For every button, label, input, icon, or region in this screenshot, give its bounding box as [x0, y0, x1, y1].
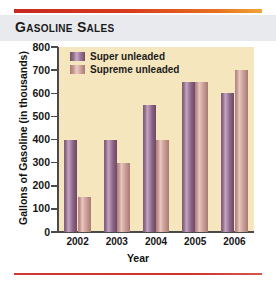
bar-supreme-unleaded-2005 [195, 82, 208, 232]
y-tick [51, 69, 58, 71]
y-axis-title: Gallons of Gasoline (in thousands) [17, 38, 29, 238]
y-tick [51, 185, 58, 187]
y-tick [51, 46, 58, 48]
y-tick [51, 231, 58, 233]
bar-supreme-unleaded-2003 [117, 163, 130, 232]
legend-label-super: Super unleaded [90, 51, 165, 62]
bar-super-unleaded-2002 [64, 140, 77, 233]
chart-figure: Gasoline Sales 0100200300400500600700800… [0, 0, 276, 293]
x-tick-label: 2002 [58, 236, 98, 247]
y-tick [51, 116, 58, 118]
bar-super-unleaded-2003 [104, 140, 117, 233]
legend-item-supreme: Supreme unleaded [70, 64, 179, 75]
bar-super-unleaded-2005 [182, 82, 195, 232]
top-accent-rule [14, 9, 262, 13]
x-tick-label: 2006 [214, 236, 254, 247]
bar-supreme-unleaded-2002 [78, 197, 91, 232]
y-tick [51, 93, 58, 95]
y-tick [51, 208, 58, 210]
bar-supreme-unleaded-2004 [156, 140, 169, 233]
x-tick-label: 2005 [175, 236, 215, 247]
bar-super-unleaded-2004 [143, 105, 156, 232]
x-tick-label: 2004 [136, 236, 176, 247]
legend-swatch-icon-super [70, 52, 85, 61]
x-axis-title: Year [0, 252, 276, 264]
chart-legend: Super unleaded Supreme unleaded [70, 51, 179, 77]
legend-label-supreme: Supreme unleaded [90, 64, 179, 75]
bar-super-unleaded-2006 [221, 93, 234, 232]
legend-item-super: Super unleaded [70, 51, 179, 62]
x-tick-label: 2003 [97, 236, 137, 247]
y-tick [51, 139, 58, 141]
bar-supreme-unleaded-2006 [235, 70, 248, 232]
legend-swatch-icon-supreme [70, 65, 85, 74]
y-tick [51, 162, 58, 164]
bottom-accent-rule [14, 273, 262, 275]
